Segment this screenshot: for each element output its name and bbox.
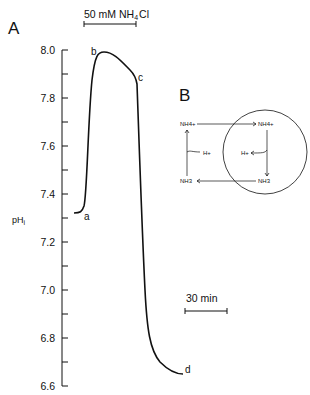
svg-text:6.6: 6.6	[40, 380, 55, 392]
y-tick-labels: 8.0 7.8 7.6 7.4 7.2 7.0 6.8 6.6	[40, 44, 55, 392]
time-scale-bar	[185, 308, 227, 314]
svg-text:H+: H+	[241, 150, 249, 156]
svg-text:NH4+: NH4+	[180, 121, 196, 127]
y-axis	[62, 50, 68, 386]
svg-text:6.8: 6.8	[40, 332, 55, 344]
svg-text:a: a	[84, 211, 90, 222]
panel-a-label: A	[8, 19, 20, 38]
svg-text:7.0: 7.0	[40, 284, 55, 296]
svg-text:7.8: 7.8	[40, 92, 55, 104]
svg-text:b: b	[91, 46, 97, 57]
svg-text:7.2: 7.2	[40, 236, 55, 248]
svg-text:NH3: NH3	[258, 178, 271, 184]
y-axis-label: pHi	[12, 215, 26, 226]
svg-text:NH3: NH3	[180, 178, 193, 184]
svg-text:7.4: 7.4	[40, 188, 55, 200]
figure: A 50 mM NH4Cl 8.0 7.8 7.6 7.4 7.2 7.0 6.…	[0, 0, 310, 395]
svg-text:8.0: 8.0	[40, 44, 55, 56]
svg-text:d: d	[185, 364, 191, 375]
panel-b-label: B	[179, 86, 190, 105]
treatment-label: 50 mM NH4Cl	[84, 8, 149, 21]
svg-text:NH4+: NH4+	[258, 121, 274, 127]
treatment-bar	[84, 21, 136, 27]
svg-text:H+: H+	[203, 150, 211, 156]
ph-trace	[74, 52, 183, 374]
cell-diagram: NH4+ NH4+ NH3 NH3 H+ H+	[180, 110, 307, 194]
svg-text:7.6: 7.6	[40, 140, 55, 152]
svg-text:c: c	[138, 72, 143, 83]
time-scale-label: 30 min	[186, 292, 218, 304]
